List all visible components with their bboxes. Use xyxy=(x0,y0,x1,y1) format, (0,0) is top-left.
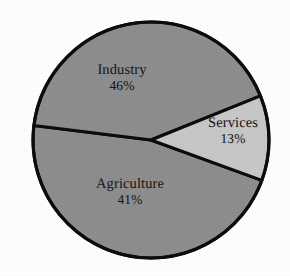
pie-label-industry-value: 46% xyxy=(63,78,181,93)
pie-label-industry-name: Industry xyxy=(63,62,181,78)
pie-label-services: Services 13% xyxy=(186,115,280,146)
pie-label-services-value: 13% xyxy=(186,131,280,146)
pie-label-agriculture: Agriculture 41% xyxy=(60,176,200,207)
pie-label-industry: Industry 46% xyxy=(63,62,181,93)
pie-chart-figure: Industry 46% Services 13% Agriculture 41… xyxy=(0,0,290,276)
pie-label-agriculture-value: 41% xyxy=(60,192,200,207)
pie-label-services-name: Services xyxy=(186,115,280,131)
pie-label-agriculture-name: Agriculture xyxy=(60,176,200,192)
